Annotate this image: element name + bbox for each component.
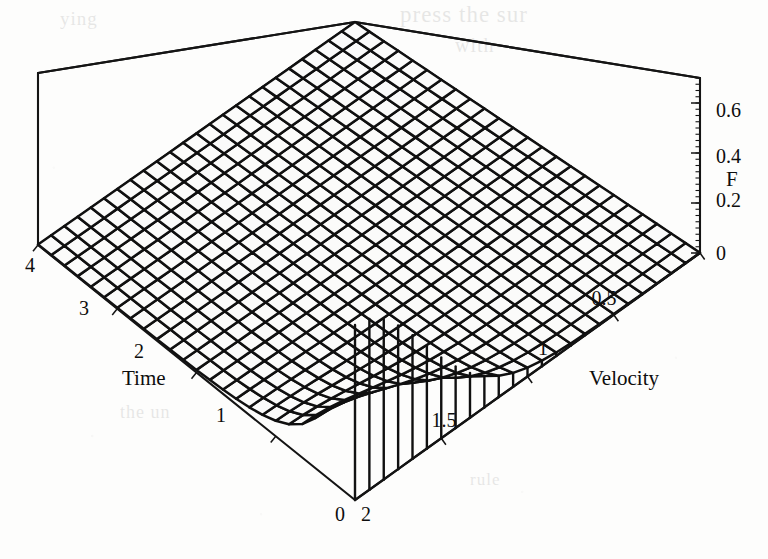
f-tick-label-0-6: 0.6 [716, 99, 741, 121]
z-axis-title-f: F [726, 167, 738, 191]
y-axis-title-velocity: Velocity [589, 366, 659, 390]
time-tick-label-4: 4 [25, 254, 35, 276]
x-axis-title-time: Time [122, 366, 166, 390]
velocity-tick-label-1: 1 [538, 337, 548, 359]
time-tick-label-0: 0 [335, 503, 345, 525]
f-tick-label-0-2: 0.2 [716, 189, 741, 211]
time-tick-label-1: 1 [216, 404, 226, 426]
time-tick-label-3: 3 [79, 297, 89, 319]
velocity-tick-label-2: 2 [361, 503, 371, 525]
axis-labels-layer: 4 3 2 1 0 0.5 1 1.5 2 0.6 0.4 0.2 0 Time… [0, 0, 768, 559]
velocity-tick-label-0-5: 0.5 [592, 287, 617, 309]
f-tick-label-0-4: 0.4 [716, 145, 741, 167]
f-tick-label-0: 0 [716, 242, 726, 264]
time-tick-label-2: 2 [134, 340, 144, 362]
velocity-tick-label-1-5: 1.5 [432, 409, 457, 431]
surface-plot-figure: press the sur with ying the un rule 4 3 … [0, 0, 768, 559]
